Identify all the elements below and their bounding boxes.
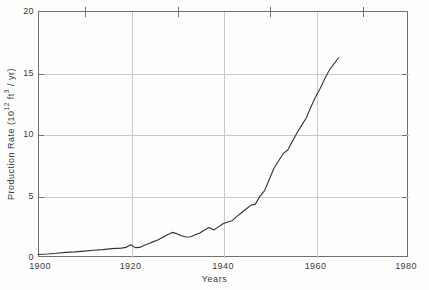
y-axis-title-exponent-2: 3 (3, 89, 10, 93)
x-tick-label-1920: 1920 (120, 261, 142, 271)
chart-figure: Production Rate (1012 ft3 / yr) 0 5 10 1… (0, 0, 429, 290)
y-tick-label-10: 10 (16, 129, 34, 139)
y-axis-title-exponent-1: 12 (3, 102, 10, 110)
x-tick-label-1900: 1900 (29, 261, 51, 271)
y-axis-title-prefix: Production Rate (10 (6, 110, 16, 200)
x-axis-title: Years (0, 274, 429, 284)
data-curve-layer (38, 11, 408, 257)
x-tick-label-1980: 1980 (395, 261, 417, 271)
y-tick-label-15: 15 (16, 68, 34, 78)
y-tick-label-20: 20 (16, 6, 34, 16)
y-tick-label-5: 5 (16, 191, 34, 201)
production-rate-line (38, 58, 339, 255)
y-axis-title-suffix: / yr) (6, 68, 16, 89)
y-axis-title-middle: ft (6, 93, 16, 102)
x-tick-label-1960: 1960 (305, 261, 327, 271)
x-tick-label-1940: 1940 (212, 261, 234, 271)
